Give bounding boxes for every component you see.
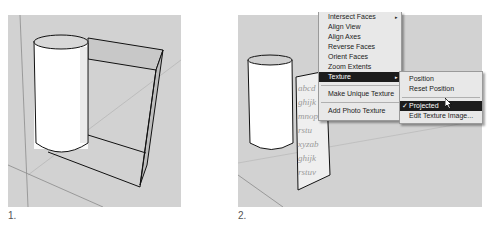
submenu-arrow-icon: ▸ — [395, 12, 398, 22]
menu-item-orient-faces[interactable]: Orient Faces — [319, 52, 401, 62]
scene-cylinder-and-frame — [8, 15, 181, 207]
submenu-item-edit-texture-image[interactable]: Edit Texture Image... — [400, 111, 482, 121]
menu-item-make-unique-texture[interactable]: Make Unique Texture — [319, 89, 401, 99]
svg-text:ghijk: ghijk — [298, 153, 317, 163]
checkmark-icon: ✓ — [402, 101, 408, 111]
menu-separator — [321, 85, 399, 86]
submenu-item-projected[interactable]: ✓Projected — [400, 101, 482, 111]
menu-separator — [321, 102, 399, 103]
menu-item-zoom-extents[interactable]: Zoom Extents — [319, 62, 401, 72]
viewport-figure-1 — [8, 15, 181, 207]
svg-text:xyzab: xyzab — [297, 139, 319, 149]
mouse-pointer-icon — [445, 98, 453, 109]
menu-item-reverse-faces[interactable]: Reverse Faces — [319, 42, 401, 52]
menu-item-label: Projected — [409, 102, 439, 109]
menu-item-texture[interactable]: Texture▸ — [319, 72, 401, 82]
submenu-item-reset-position[interactable]: Reset Position — [400, 84, 482, 94]
svg-text:rstu: rstu — [298, 125, 313, 135]
submenu-item-position[interactable]: Position — [400, 74, 482, 84]
menu-item-add-photo-texture[interactable]: Add Photo Texture — [319, 106, 401, 116]
svg-text:mnop: mnop — [298, 111, 318, 121]
texture-submenu: Position Reset Position ✓Projected Edit … — [399, 71, 483, 124]
menu-item-align-view[interactable]: Align View — [319, 22, 401, 32]
menu-item-label: Intersect Faces — [328, 13, 376, 20]
menu-item-intersect-faces[interactable]: Intersect Faces▸ — [319, 12, 401, 22]
svg-text:rstuv: rstuv — [298, 167, 316, 177]
menu-item-label: Texture — [328, 73, 351, 80]
svg-text:abcd: abcd — [298, 83, 316, 93]
submenu-arrow-icon: ▸ — [395, 72, 398, 82]
menu-item-align-axes[interactable]: Align Axes — [319, 32, 401, 42]
menu-separator — [402, 97, 480, 98]
figure-1-caption: 1. — [8, 210, 16, 221]
figure-2-caption: 2. — [238, 210, 246, 221]
svg-text:ghijk: ghijk — [298, 97, 317, 107]
context-menu: Intersect Faces▸ Align View Align Axes R… — [318, 12, 402, 121]
